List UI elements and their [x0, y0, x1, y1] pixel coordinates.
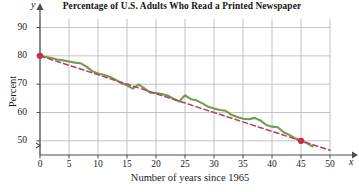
point-markers-group: [37, 53, 304, 144]
chart-figure: Percentage of U.S. Adults Who Read a Pri…: [0, 0, 359, 192]
x-tick-label: 20: [146, 159, 166, 169]
tick-marks: [37, 28, 331, 159]
y-tick-label: 50: [5, 135, 27, 145]
x-tick-label: 0: [30, 159, 50, 169]
x-tick-label: 25: [175, 159, 195, 169]
x-tick-label: 15: [117, 159, 137, 169]
x-axis-variable: x: [349, 156, 353, 167]
x-tick-label: 30: [204, 159, 224, 169]
y-tick-label: 90: [5, 22, 27, 32]
axis-lines: [36, 3, 358, 159]
x-tick-label: 40: [262, 159, 282, 169]
y-axis-label: Percent: [7, 62, 18, 122]
x-tick-label: 35: [233, 159, 253, 169]
x-tick-label: 45: [291, 159, 311, 169]
x-tick-label: 5: [59, 159, 79, 169]
x-axis-label: Number of years since 1965: [95, 172, 285, 183]
x-tick-label: 50: [320, 159, 340, 169]
y-tick-label: 80: [5, 50, 27, 60]
x-tick-label: 10: [88, 159, 108, 169]
y-axis-variable: y: [31, 0, 35, 10]
